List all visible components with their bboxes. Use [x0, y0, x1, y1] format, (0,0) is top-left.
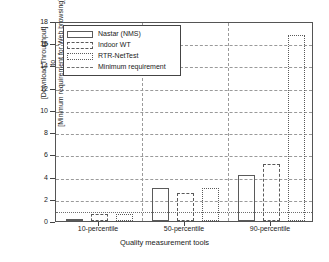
chart-legend: Nastar (NMS)Indoor WTRTR-NetTestMinimum … — [63, 25, 181, 76]
x-axis-title: Quality measurement tools — [0, 238, 329, 247]
legend-item: Indoor WT — [67, 40, 177, 50]
legend-line-swatch-icon — [67, 64, 93, 71]
legend-bar-swatch-icon — [67, 53, 93, 60]
x-tick-label: 90-percentile — [235, 225, 305, 233]
legend-item: Minimum requirement — [67, 62, 177, 72]
legend-item-label: RTR-NetTest — [98, 52, 138, 60]
bar — [288, 35, 305, 221]
legend-bar-swatch-icon — [67, 42, 93, 49]
y-tick-mark — [50, 222, 55, 223]
bar — [66, 219, 83, 221]
gridline-vertical — [228, 23, 229, 221]
bar — [116, 214, 133, 221]
y-axis-title-line-0: [Download Throughput] — [40, 0, 49, 158]
chart-figure: 024681012141618 10-percentile50-percenti… — [0, 0, 329, 262]
y-tick-label: 2 — [28, 196, 48, 203]
bar — [152, 188, 169, 221]
gridline-horizontal — [56, 112, 312, 113]
y-axis-title-line-2: [Minimum requirement for Web browsing] — [57, 0, 66, 158]
x-tick-label: 50-percentile — [149, 225, 219, 233]
legend-bar-swatch-icon — [67, 31, 93, 38]
legend-item: RTR-NetTest — [67, 51, 177, 61]
bar — [263, 164, 280, 221]
y-axis-title-line-1: to — [49, 0, 58, 158]
bar — [238, 175, 255, 221]
legend-item-label: Indoor WT — [98, 41, 131, 49]
y-axis-title: [Download Throughput]to[Minimum requirem… — [40, 0, 66, 158]
bar — [91, 214, 108, 221]
y-tick-label: 4 — [28, 174, 48, 181]
gridline-horizontal — [56, 90, 312, 91]
gridline-horizontal — [56, 134, 312, 135]
legend-item-label: Minimum requirement — [98, 63, 166, 71]
gridline-horizontal — [56, 156, 312, 157]
legend-item-label: Nastar (NMS) — [98, 30, 141, 38]
y-tick-label: 0 — [28, 218, 48, 225]
legend-item: Nastar (NMS) — [67, 29, 177, 39]
bar — [202, 188, 219, 221]
bar — [177, 193, 194, 221]
x-tick-label: 10-percentile — [63, 225, 133, 233]
